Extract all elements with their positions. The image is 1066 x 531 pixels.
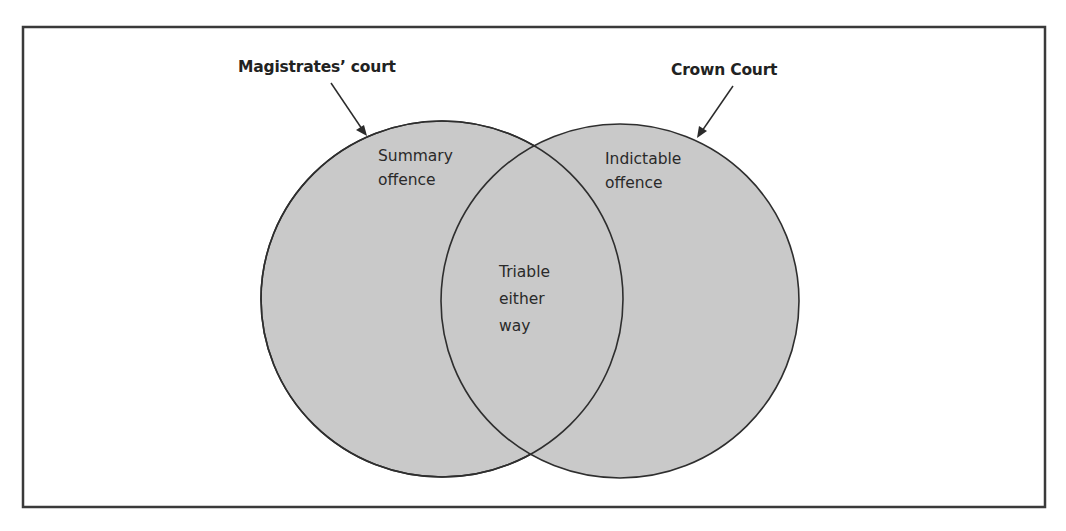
indictable-offence-label: Indictable offence — [605, 147, 681, 195]
indictable-offence-line-1: Indictable — [605, 147, 681, 171]
triable-line-1: Triable — [499, 259, 550, 286]
indictable-offence-line-2: offence — [605, 171, 681, 195]
summary-offence-line-2: offence — [378, 168, 453, 192]
crown-court-label: Crown Court — [671, 63, 777, 79]
magistrates-arrow-icon — [331, 83, 367, 136]
magistrates-court-label: Magistrates’ court — [238, 60, 396, 76]
summary-offence-label: Summary offence — [378, 144, 453, 192]
crown-arrow-icon — [697, 86, 733, 138]
triable-either-way-label: Triable either way — [499, 259, 550, 340]
triable-line-3: way — [499, 313, 550, 340]
triable-line-2: either — [499, 286, 550, 313]
summary-offence-line-1: Summary — [378, 144, 453, 168]
